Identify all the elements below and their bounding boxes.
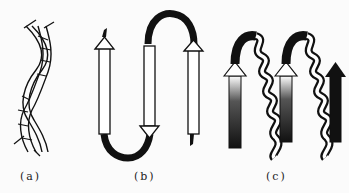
beta-alpha-beta-icon bbox=[210, 0, 349, 193]
panel-b: (b) bbox=[90, 0, 210, 193]
label-a: (a) bbox=[20, 170, 41, 183]
panel-c: (c) bbox=[210, 0, 349, 193]
coiled-coil-icon bbox=[0, 0, 90, 193]
label-c: (c) bbox=[266, 170, 287, 183]
beta-meander-icon bbox=[90, 0, 210, 193]
label-b: (b) bbox=[134, 170, 156, 183]
panel-a: (a) bbox=[0, 0, 90, 193]
